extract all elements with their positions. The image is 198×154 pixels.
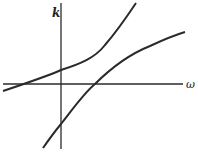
omega-axis-label: ω (186, 78, 195, 91)
lower-branch-curve (43, 32, 185, 148)
upper-branch-curve (3, 3, 136, 91)
dispersion-diagram: k ω (0, 0, 198, 154)
k-axis-label: k (52, 6, 60, 20)
